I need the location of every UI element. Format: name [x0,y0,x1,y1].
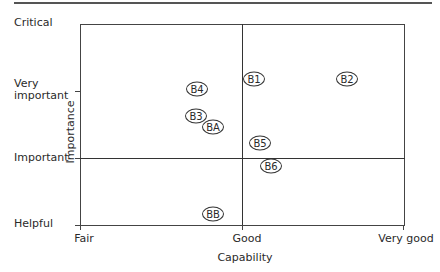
y-label-very-important: Very important [14,78,68,102]
y-tick-very-important [75,91,80,92]
point-bb: BB [202,207,224,222]
point-b2: B2 [336,72,358,87]
point-b4: B4 [186,82,208,97]
x-axis-title: Capability [217,251,272,264]
point-b5: B5 [249,136,271,151]
x-tick-very-good [403,225,404,230]
x-label-good: Good [233,233,262,245]
y-label-important: Important [14,152,69,164]
y-label-helpful: Helpful [14,218,53,230]
top-rule [14,2,432,4]
x-tick-fair [80,225,81,230]
vertical-divider [242,24,243,226]
horizontal-divider [80,158,405,159]
x-tick-good [242,225,243,230]
y-axis-title: Importance [64,100,77,163]
x-label-fair: Fair [74,233,94,245]
x-label-very-good: Very good [378,233,433,245]
y-label-critical: Critical [14,17,52,29]
point-b1: B1 [243,72,265,87]
point-b6: B6 [260,159,282,174]
point-ba: BA [202,120,224,135]
